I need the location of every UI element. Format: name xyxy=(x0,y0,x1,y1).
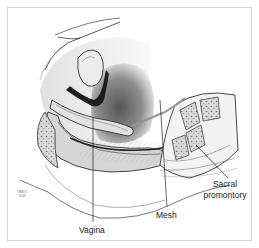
label-vagina: Vagina xyxy=(79,225,105,236)
pelvis-illustration xyxy=(0,0,259,248)
copyright-line2: 2008 xyxy=(15,195,29,199)
uterus xyxy=(78,50,104,86)
copyright-mark: ©MAYO 2008 xyxy=(15,191,29,198)
sacrum xyxy=(160,93,238,178)
label-sacral-promontory: Sacral promontory xyxy=(203,179,247,201)
label-sacral-line1: Sacral xyxy=(203,179,247,190)
label-sacral-line2: promontory xyxy=(203,190,247,201)
label-mesh: Mesh xyxy=(156,210,177,221)
